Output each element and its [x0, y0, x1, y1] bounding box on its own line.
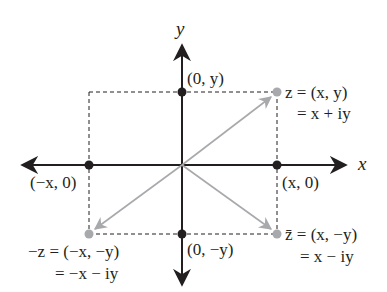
label-neg-x-0: (−x, 0) — [30, 174, 76, 192]
label-neg-z-line2: = −x − iy — [55, 265, 118, 283]
point-neg-x-0 — [85, 161, 94, 170]
label-z-line1: z = (x, y) — [285, 84, 347, 102]
point-neg-z — [85, 230, 94, 239]
x-axis-label: x — [358, 155, 366, 173]
label-0-neg-y: (0, −y) — [187, 241, 233, 259]
label-z-conjugate-line1: z̄ = (x, −y) — [285, 226, 357, 244]
y-axis-label: y — [176, 20, 184, 38]
point-x-0 — [273, 161, 282, 170]
point-0-y — [178, 88, 187, 97]
point-0-neg-y — [178, 230, 187, 239]
label-z-line2: = x + iy — [297, 105, 351, 123]
vector-neg-z — [95, 165, 182, 229]
vector-z — [182, 97, 271, 165]
label-0-y: (0, y) — [187, 70, 224, 88]
label-z-conjugate-line2: = x − iy — [300, 248, 354, 266]
point-z-conjugate — [273, 230, 282, 239]
label-x-0: (x, 0) — [282, 174, 319, 192]
vector-z-conjugate — [182, 165, 271, 229]
point-z — [273, 88, 282, 97]
label-neg-z-line1: −z = (−x, −y) — [28, 243, 119, 261]
